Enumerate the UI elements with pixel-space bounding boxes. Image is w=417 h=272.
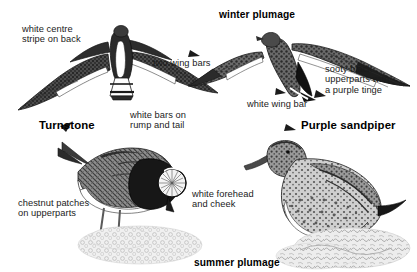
label-summer-plumage: summer plumage bbox=[194, 258, 280, 268]
label-winter-plumage: winter plumage bbox=[219, 10, 295, 20]
label-chestnut-patches: chestnut patches on upperparts bbox=[18, 198, 89, 219]
label-two-wing-bars: two wing bars bbox=[153, 58, 211, 68]
label-purple-sandpiper-name: Purple sandpiper bbox=[301, 120, 396, 130]
label-sooty-black-upperparts: sooty black upperparts with a purple tin… bbox=[325, 64, 389, 95]
label-white-bars-rump-and-tail: white bars on rump and tail bbox=[130, 110, 186, 131]
label-white-centre-stripe: white centre stripe on back bbox=[22, 24, 81, 45]
label-white-forehead-and-cheek: white forehead and cheek bbox=[192, 189, 254, 210]
bird-identification-plate: white centre stripe on back two wing bar… bbox=[0, 0, 417, 272]
label-turnstone-name: Turnstone bbox=[39, 120, 95, 130]
label-white-wing-bar: white wing bar bbox=[247, 99, 307, 109]
